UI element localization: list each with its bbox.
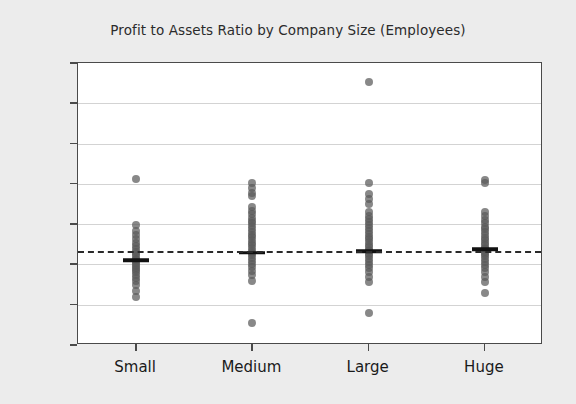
data-point (132, 293, 140, 301)
data-point (481, 278, 489, 286)
y-axis-tick-mark (70, 62, 77, 64)
x-axis-tick-label: Small (114, 358, 156, 376)
data-point (132, 175, 140, 183)
median-bar (123, 259, 149, 263)
y-axis-tick-mark (70, 223, 77, 225)
y-axis-tick-mark (70, 344, 77, 346)
data-point (365, 278, 373, 286)
mean-reference-line (78, 251, 541, 253)
y-axis-tick-mark (70, 102, 77, 104)
y-axis-tick-mark (70, 263, 77, 265)
data-point (481, 289, 489, 297)
data-point (481, 179, 489, 187)
x-axis-tick-label: Large (347, 358, 389, 376)
data-point (365, 78, 373, 86)
x-axis-tick-mark (368, 344, 370, 351)
y-axis-tick-mark (70, 183, 77, 185)
data-point (365, 200, 373, 208)
data-point (248, 192, 256, 200)
y-axis-tick-mark (70, 304, 77, 306)
data-points-layer (78, 63, 541, 343)
chart-title: Profit to Assets Ratio by Company Size (… (0, 22, 576, 38)
y-axis-tick-mark (70, 143, 77, 145)
x-axis-tick-mark (484, 344, 486, 351)
x-axis-tick-mark (251, 344, 253, 351)
x-axis-tick-mark (135, 344, 137, 351)
median-bar (472, 247, 498, 251)
data-point (248, 319, 256, 327)
data-point (248, 277, 256, 285)
data-point (365, 309, 373, 317)
plot-panel (77, 62, 542, 344)
x-axis-tick-label: Huge (464, 358, 504, 376)
chart-figure: Profit to Assets Ratio by Company Size (… (0, 0, 576, 404)
data-point (365, 179, 373, 187)
x-axis-tick-label: Medium (221, 358, 281, 376)
